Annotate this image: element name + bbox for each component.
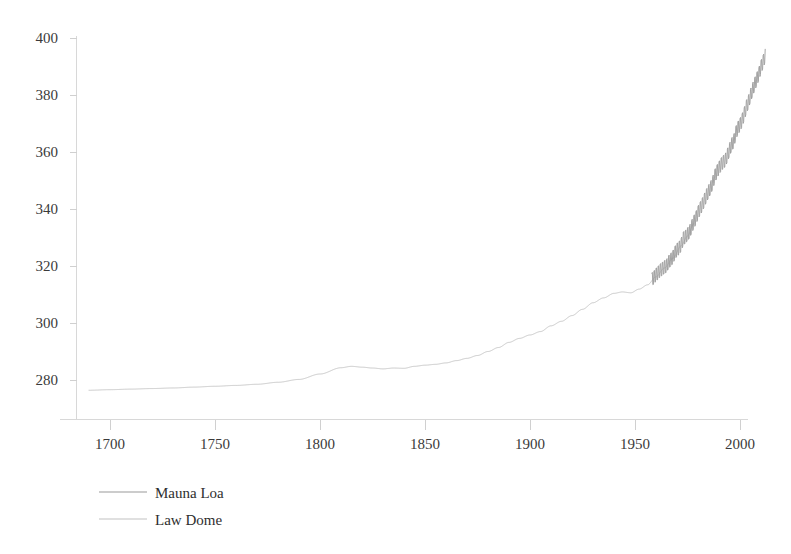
y-axis-ticks: 280300320340360380400 xyxy=(36,30,78,388)
x-tick-label: 2000 xyxy=(725,436,755,452)
legend-label-mauna-loa: Mauna Loa xyxy=(155,485,224,501)
x-tick-label: 1900 xyxy=(515,436,545,452)
axis-group xyxy=(60,36,748,420)
series-line-law-dome xyxy=(89,224,694,390)
y-tick-label: 280 xyxy=(36,372,59,388)
series-group xyxy=(89,49,765,390)
x-tick-label: 1850 xyxy=(410,436,440,452)
chart-root: 280300320340360380400 170017501800185019… xyxy=(0,0,791,554)
x-tick-label: 1800 xyxy=(305,436,335,452)
series-line-mauna-loa xyxy=(652,49,765,284)
chart-legend: Mauna LoaLaw Dome xyxy=(99,485,224,528)
legend-label-law-dome: Law Dome xyxy=(155,512,222,528)
y-tick-label: 380 xyxy=(36,87,59,103)
y-tick-label: 300 xyxy=(36,315,59,331)
x-tick-label: 1950 xyxy=(620,436,650,452)
x-tick-label: 1700 xyxy=(95,436,125,452)
y-tick-label: 360 xyxy=(36,144,59,160)
y-tick-label: 340 xyxy=(36,201,59,217)
y-tick-label: 400 xyxy=(36,30,59,46)
y-tick-label: 320 xyxy=(36,258,59,274)
x-tick-label: 1750 xyxy=(200,436,230,452)
x-axis-ticks: 1700175018001850190019502000 xyxy=(95,420,755,452)
co2-line-chart: 280300320340360380400 170017501800185019… xyxy=(0,0,791,554)
